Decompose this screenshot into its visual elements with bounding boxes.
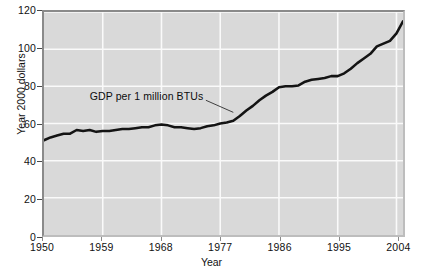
x-axis-tick-label: 1986 [268, 241, 292, 253]
x-axis-tick-label: 1995 [327, 241, 351, 253]
x-axis-tick-mark [398, 237, 399, 241]
y-axis-title: Year 2000 dollars [15, 29, 27, 159]
series-annotation-label: GDP per 1 million BTUs [90, 90, 203, 102]
x-axis-tick-mark [161, 237, 162, 241]
x-axis-tick-label: 1968 [149, 241, 173, 253]
x-axis-tick-mark [42, 237, 43, 241]
x-axis-tick-mark [101, 237, 102, 241]
x-axis-tick-mark [339, 237, 340, 241]
x-axis-tick-label: 2004 [386, 241, 410, 253]
y-axis-tick-label: 20 [24, 193, 36, 205]
x-axis-tick-mark [220, 237, 221, 241]
plot-area [42, 10, 405, 237]
chart-container: 020406080100120 Year 2000 dollars GDP pe… [0, 0, 423, 274]
x-axis-tick-mark [280, 237, 281, 241]
annotation-leader-line [44, 12, 403, 235]
x-axis-tick-label: 1977 [208, 241, 232, 253]
y-axis-tick-label: 120 [18, 4, 36, 16]
x-axis-tick-label: 1950 [30, 241, 54, 253]
x-axis-tick-label: 1959 [89, 241, 113, 253]
x-axis-title: Year [0, 256, 423, 268]
